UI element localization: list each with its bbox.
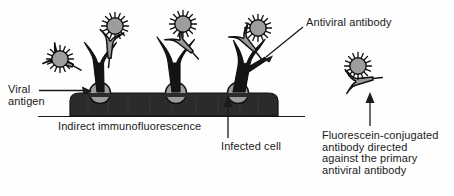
fluorescein-ball-1 — [47, 46, 74, 73]
label-antiviral-antibody: Antiviral antibody — [306, 17, 392, 29]
label-viral-antigen: Viral antigen — [8, 84, 45, 107]
label-infected-cell: Infected cell — [221, 141, 281, 153]
label-fluorescein-conjugated-antibody: Fluorescein-conjugated antibody directed… — [322, 130, 439, 176]
label-indirect-immunofluorescence: Indirect immunofluorescence — [58, 121, 201, 133]
leader-viral-antigen — [39, 87, 92, 96]
fluorescein-ball-2 — [102, 13, 129, 40]
fluorescein-ball-3 — [170, 11, 197, 38]
fluorescein-ball-4 — [245, 15, 272, 42]
free-fluorescein-ball — [345, 53, 372, 80]
indirect-immunofluorescence-figure: Antiviral antibody Viral antigen Indirec… — [0, 0, 454, 196]
immune-complex-3 — [229, 15, 272, 93]
immune-complex-2 — [157, 11, 207, 93]
leader-fluorescein-antibody — [366, 92, 375, 126]
immune-complex-1 — [43, 13, 129, 93]
